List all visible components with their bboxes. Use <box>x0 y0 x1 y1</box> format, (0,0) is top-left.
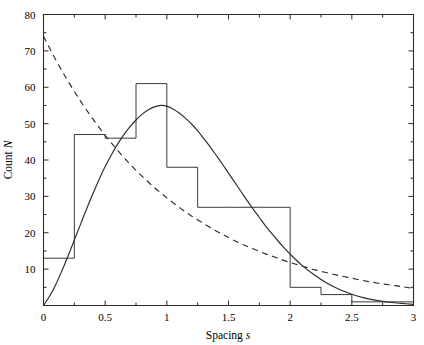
x-axis-tick-labels: 00.511.522.53 <box>41 311 417 323</box>
wigner-surmise-curve <box>44 105 414 305</box>
plot-frame <box>44 15 414 306</box>
x-tick-label: 3 <box>411 311 417 323</box>
poisson-exponential-curve <box>44 36 414 288</box>
chart-plot-area: 00.511.522.53 1020304050607080 Spacing s… <box>0 0 424 345</box>
x-tick-label: 0.5 <box>98 311 112 323</box>
y-tick-label: 50 <box>25 118 37 130</box>
data-curves <box>44 36 414 305</box>
x-axis-title: Spacing s <box>206 329 251 342</box>
y-tick-label: 70 <box>25 45 37 57</box>
x-tick-label: 2 <box>287 311 293 323</box>
y-axis-title-text: Count N <box>2 139 14 179</box>
y-tick-label: 20 <box>25 227 37 239</box>
x-tick-label: 0 <box>41 311 47 323</box>
y-axis-title: Count N <box>2 139 14 179</box>
y-axis-tick-labels: 1020304050607080 <box>25 9 37 276</box>
y-tick-label: 30 <box>25 190 37 202</box>
histogram-outline <box>44 84 414 306</box>
histogram-bars <box>44 84 414 306</box>
y-tick-label: 40 <box>25 154 37 166</box>
chart-figure: 00.511.522.53 1020304050607080 Spacing s… <box>0 0 424 345</box>
axes-frame <box>44 15 414 306</box>
x-tick-label: 2.5 <box>345 311 359 323</box>
y-tick-label: 60 <box>25 81 37 93</box>
x-tick-label: 1 <box>164 311 170 323</box>
tick-marks <box>44 15 414 306</box>
y-tick-label: 10 <box>25 263 37 275</box>
x-tick-label: 1.5 <box>222 311 236 323</box>
x-axis-title-text: Spacing s <box>206 329 251 342</box>
y-tick-label: 80 <box>25 9 37 21</box>
